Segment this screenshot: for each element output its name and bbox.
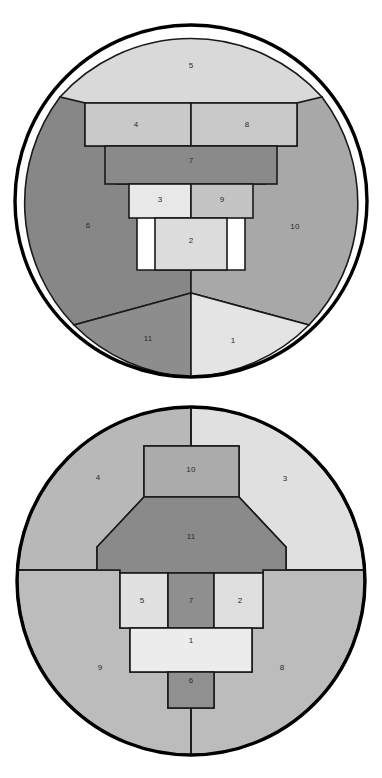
cell-t7[interactable]	[105, 146, 277, 184]
cell-b7[interactable]	[168, 573, 214, 628]
bottom-cell-group	[18, 407, 365, 755]
cell-t4[interactable]	[85, 103, 191, 146]
page-root: 5 6 10 11 1 4 8 7 3 9 2	[0, 0, 382, 778]
cell-b5[interactable]	[120, 573, 168, 628]
cell-b2[interactable]	[214, 573, 263, 628]
cell-t8[interactable]	[191, 103, 297, 146]
bottom-diagram-svg: 4 3 9 8 10 11 5 7 2 1 6	[0, 389, 382, 778]
top-diagram-svg: 5 6 10 11 1 4 8 7 3 9 2	[0, 0, 382, 389]
cell-t2[interactable]	[155, 218, 227, 270]
cell-b10[interactable]	[144, 446, 239, 497]
cell-t9[interactable]	[191, 184, 253, 218]
cell-b6[interactable]	[168, 672, 214, 708]
top-cell-group	[25, 39, 358, 377]
circular-partition-top: 5 6 10 11 1 4 8 7 3 9 2	[0, 0, 382, 389]
cell-b1[interactable]	[130, 628, 252, 672]
circular-partition-bottom: 4 3 9 8 10 11 5 7 2 1 6	[0, 389, 382, 778]
cell-t3[interactable]	[129, 184, 191, 218]
